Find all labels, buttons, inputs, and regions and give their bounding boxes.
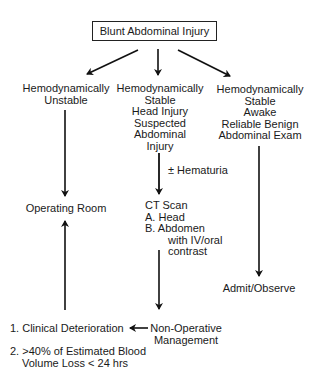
title-label: Blunt Abdominal Injury	[100, 25, 209, 37]
title-box: Blunt Abdominal Injury	[92, 21, 217, 41]
arrow-to-unstable	[87, 50, 138, 74]
criteria-2: 2. >40% of Estimated Blood Volume Loss <…	[10, 346, 146, 369]
node-ct-scan: CT Scan A. Head B. Abdomen with IV/oral …	[145, 200, 222, 258]
arrow-to-stable-awake	[178, 50, 230, 76]
node-admit-observe: Admit/Observe	[218, 283, 300, 295]
node-stable-head-injury: Hemodynamically Stable Head Injury Suspe…	[115, 83, 205, 152]
criteria-1: 1. Clinical Deterioration	[10, 323, 124, 335]
node-stable-awake: Hemodynamically Stable Awake Reliable Be…	[213, 84, 307, 142]
node-operating-room: Operating Room	[20, 203, 112, 215]
node-unstable: Hemodynamically Unstable	[20, 83, 112, 106]
node-non-operative-management: Non-Operative Management	[150, 323, 222, 346]
hematuria-label: ± Hematuria	[168, 165, 228, 177]
